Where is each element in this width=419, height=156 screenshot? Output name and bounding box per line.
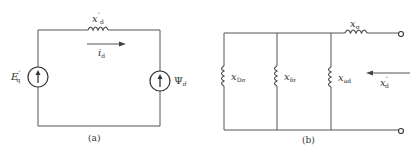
label-symbol: x [338,72,344,83]
label-superscript: ″ [18,69,20,76]
diagram-a-circuit [28,27,170,126]
label-symbol: x [350,18,356,29]
label-subscript: ad [344,77,351,84]
label-current-id: id [98,48,105,58]
label-x-ad: xad [338,73,351,83]
label-symbol: Ψ [174,75,183,86]
label-subscript: d [385,82,389,89]
terminal-bottom [399,129,404,134]
label-x-sigma: xσ [350,19,360,29]
label-subscript: d [100,18,104,25]
label-xd-subtransient: x″d [92,14,104,24]
label-psi-d: Ψd [174,76,187,86]
label-symbol: x [231,71,237,82]
label-subscript: σ [356,23,360,30]
equivalent-arrow [366,71,410,76]
caption-b: (b) [302,136,315,145]
flux-source-psid [150,71,170,91]
label-subscript: fσ [290,76,296,83]
label-subscript: Dσ [237,76,246,83]
caption-a: (a) [88,134,100,143]
label-subscript: d [101,52,105,59]
label-subscript: d [183,80,187,87]
inductor-xd-subtransient [88,27,108,30]
label-superscript: ″ [98,11,100,18]
label-symbol: x [284,71,290,82]
label-superscript: ″ [386,75,388,82]
label-x-f-sigma: xfσ [284,72,296,82]
current-arrow [87,42,126,47]
label-subscript: q [17,76,21,83]
label-symbol: x [92,13,98,24]
label-x-d-sigma: xDσ [231,72,246,82]
branch-x-d-sigma [222,33,225,130]
branch-x-f-sigma [275,33,278,130]
voltage-source-eq [28,67,48,87]
inductor-x-sigma [345,30,367,33]
branch-x-ad [329,33,332,130]
label-eq-subtransient: E″q [11,72,20,82]
terminal-top [399,32,404,37]
label-equivalent-xd: x″d [380,78,389,88]
